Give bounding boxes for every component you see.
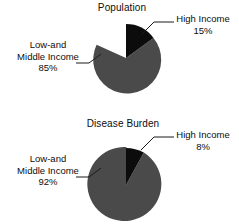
callout-population-low-middle-income-pct: 85%	[2, 62, 94, 74]
chart-population-title: Population	[72, 2, 172, 14]
callout-disease-high-income: High Income 8%	[167, 129, 239, 152]
callout-disease-low-middle-income-pct: 92%	[2, 176, 94, 188]
callout-disease-high-income-pct: 8%	[167, 141, 239, 153]
chart-disease-burden: Disease Burden High Income 8% Low-and Mi…	[0, 112, 239, 224]
callout-population-low-middle-income-line1: Low-and	[30, 39, 66, 50]
callout-disease-low-middle-income-line1: Low-and	[30, 153, 66, 164]
chart-disease-burden-title: Disease Burden	[68, 118, 178, 130]
callout-population-low-middle-income: Low-and Middle Income 85%	[2, 39, 94, 74]
callout-population-high-income-pct: 15%	[167, 25, 239, 37]
callout-disease-high-income-label: High Income	[176, 129, 229, 140]
callout-disease-low-middle-income: Low-and Middle Income 92%	[2, 153, 94, 188]
pie-chart-figure: Population High Income 15% Low-and Middl…	[0, 0, 239, 224]
callout-population-high-income-label: High Income	[176, 13, 229, 24]
callout-population-high-income: High Income 15%	[167, 13, 239, 36]
chart-population: Population High Income 15% Low-and Middl…	[0, 0, 239, 112]
callout-population-low-middle-income-line2: Middle Income	[17, 51, 79, 62]
callout-disease-low-middle-income-line2: Middle Income	[17, 165, 79, 176]
